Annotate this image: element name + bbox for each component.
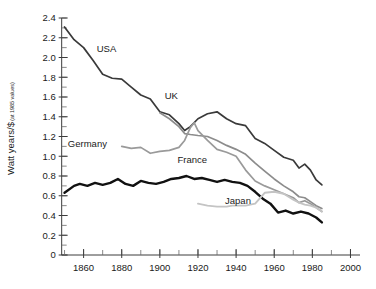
y-axis-title-group: Watt years/$(at 1985 values): [5, 82, 16, 175]
y-axis-title-sub: (at 1985 values): [9, 82, 15, 121]
x-tick-label: 1940: [226, 262, 247, 273]
series-label-japan: Japan: [225, 195, 251, 206]
y-axis-title: Watt years/$(at 1985 values): [5, 82, 16, 175]
series-line-france: [65, 176, 322, 222]
x-tick-label: 1960: [264, 262, 285, 273]
series-label-usa: USA: [97, 43, 117, 54]
series-label-france: France: [177, 154, 207, 165]
y-tick-label: 1.6: [42, 91, 55, 102]
x-tick-label: 1860: [73, 262, 94, 273]
x-tick-label: 1920: [187, 262, 208, 273]
y-tick-label: 0.6: [42, 190, 55, 201]
y-tick-label: 1.4: [42, 111, 55, 122]
y-tick-label: 1.8: [42, 72, 55, 83]
y-tick-label: 1.2: [42, 131, 55, 142]
data-series: [65, 27, 322, 223]
y-axis-title-main: Watt years/$: [5, 121, 16, 175]
y-tick-label: 0.8: [42, 170, 55, 181]
chart-container: 00.20.40.60.81.01.21.41.61.82.02.22.4186…: [0, 0, 376, 289]
y-tick-label: 2.4: [42, 12, 55, 23]
y-tick-label: 1.0: [42, 151, 55, 162]
x-tick-label: 1900: [149, 262, 170, 273]
y-tick-label: 2.0: [42, 52, 55, 63]
y-tick-label: 0: [50, 249, 55, 260]
series-label-uk: UK: [165, 90, 179, 101]
x-tick-label: 1980: [302, 262, 323, 273]
x-tick-label: 1880: [111, 262, 132, 273]
y-tick-label: 2.2: [42, 32, 55, 43]
y-tick-label: 0.4: [42, 210, 55, 221]
y-tick-label: 0.2: [42, 230, 55, 241]
series-label-germany: Germany: [68, 138, 107, 149]
line-chart: 00.20.40.60.81.01.21.41.61.82.02.22.4186…: [0, 0, 376, 289]
x-tick-label: 2000: [340, 262, 361, 273]
